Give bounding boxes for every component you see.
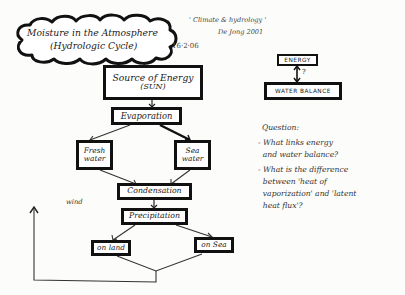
question-heading: Question: [262, 122, 299, 134]
on-land-label: on land [97, 244, 125, 252]
sun-label: (SUN) [140, 83, 165, 91]
water-balance-label: WATER BALANCE [275, 88, 331, 94]
link-question-mark: ? [302, 69, 306, 76]
condensation-label: Condensation [127, 187, 181, 195]
title-line-1: Moisture in the Atmosphere [27, 28, 158, 37]
condensation-box: Condensation [117, 183, 192, 200]
evaporation-label: Evaporation [121, 112, 173, 121]
question-line-4: between 'heat of [258, 176, 327, 188]
on-sea-label: on Sea [201, 241, 226, 249]
reference-title: ' Climate & hydrology ' [189, 17, 266, 24]
question-line-3: - What is the difference [258, 164, 348, 176]
date-label: 16·2·06 [172, 43, 199, 50]
precipitation-box: Precipitation [121, 208, 188, 225]
sea-water-box: Sea water [174, 140, 211, 170]
source-of-energy-box: Source of Energy (SUN) [103, 65, 203, 100]
precipitation-label: Precipitation [129, 212, 180, 220]
question-line-2: and water balance? [258, 149, 338, 161]
return-path [117, 254, 202, 271]
reference-author: De Jong 2001 [218, 29, 263, 36]
water-label: water [84, 155, 106, 163]
water-balance-box: WATER BALANCE [264, 82, 342, 100]
fresh-water-box: Fresh water [76, 140, 113, 170]
wind-label: wind [66, 199, 83, 206]
question-line-6: heat flux'? [258, 200, 303, 212]
energy-box: ENERGY [277, 54, 318, 66]
question-line-5: vaporization' and 'latent [258, 188, 356, 200]
question-line-1: - What links energy [258, 137, 333, 149]
title-line-2: (Hydrologic Cycle) [50, 41, 137, 50]
energy-label: ENERGY [284, 57, 310, 63]
on-sea-box: on Sea [194, 237, 234, 253]
evaporation-box: Evaporation [111, 107, 182, 125]
water-label: water [182, 155, 204, 163]
on-land-box: on land [91, 240, 131, 256]
